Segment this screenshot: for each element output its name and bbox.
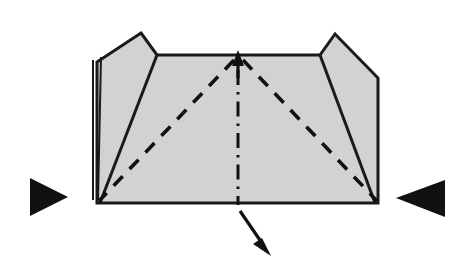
origami-diagram-svg	[0, 0, 470, 276]
origami-diagram-canvas	[0, 0, 470, 276]
